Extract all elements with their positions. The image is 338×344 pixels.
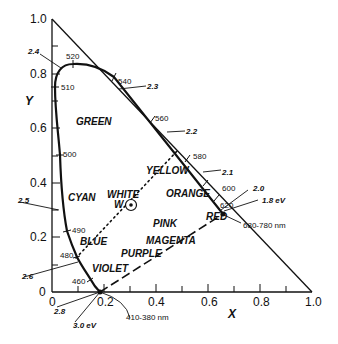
svg-text:580: 580 (193, 152, 207, 161)
svg-text:2.0: 2.0 (252, 184, 265, 193)
svg-text:YELLOW: YELLOW (146, 165, 190, 176)
svg-text:2.5: 2.5 (17, 196, 30, 205)
svg-text:2.6: 2.6 (21, 272, 34, 281)
svg-text:600: 600 (222, 184, 236, 193)
svg-text:620: 620 (220, 201, 234, 210)
svg-text:1.8 eV: 1.8 eV (262, 196, 286, 205)
svg-text:560: 560 (155, 114, 169, 123)
svg-text:PURPLE: PURPLE (121, 248, 162, 259)
svg-text:2.4: 2.4 (27, 47, 40, 56)
svg-text:0.4: 0.4 (30, 176, 47, 190)
svg-text:520: 520 (66, 52, 80, 61)
svg-text:510: 510 (61, 83, 75, 92)
svg-text:2.3: 2.3 (146, 82, 159, 91)
svg-text:0.2: 0.2 (97, 295, 114, 309)
diagonal-line (52, 19, 312, 292)
svg-text:RED: RED (206, 211, 227, 222)
svg-text:2.1: 2.1 (221, 168, 234, 177)
svg-text:2.2: 2.2 (185, 127, 198, 136)
svg-text:0.8: 0.8 (253, 295, 270, 309)
axes (52, 19, 312, 292)
x-ticks (78, 284, 286, 292)
svg-text:490: 490 (72, 226, 86, 235)
color-region-labels: GREEN YELLOW ORANGE RED PINK MAGENTA PUR… (68, 116, 227, 274)
y-axis-title: Y (25, 94, 34, 108)
svg-text:3.0 eV: 3.0 eV (73, 321, 97, 330)
svg-text:1.0: 1.0 (30, 12, 47, 26)
cie-chromaticity-diagram: 1.0 0.8 0.6 0.4 0.2 0 0 0.2 0.4 0.6 0.8 … (0, 0, 338, 344)
svg-text:0.6: 0.6 (201, 295, 218, 309)
svg-text:PINK: PINK (153, 218, 178, 229)
svg-text:0.6: 0.6 (30, 121, 47, 135)
svg-text:680-780 nm: 680-780 nm (243, 221, 286, 230)
svg-text:0: 0 (39, 285, 46, 299)
svg-text:VIOLET: VIOLET (92, 263, 129, 274)
svg-text:2.8: 2.8 (53, 307, 66, 316)
svg-text:0.8: 0.8 (30, 67, 47, 81)
svg-text:MAGENTA: MAGENTA (146, 235, 196, 246)
x-tick-labels: 0 0.2 0.4 0.6 0.8 1.0 (49, 295, 322, 309)
svg-text:ORANGE: ORANGE (166, 188, 210, 199)
svg-text:W: W (114, 199, 125, 210)
svg-text:1.0: 1.0 (305, 295, 322, 309)
svg-text:GREEN: GREEN (76, 116, 112, 127)
svg-text:CYAN: CYAN (68, 192, 96, 203)
svg-text:460: 460 (72, 277, 86, 286)
white-point-marker (126, 200, 137, 211)
svg-text:410-380 nm: 410-380 nm (126, 313, 169, 322)
svg-text:0.4: 0.4 (148, 295, 165, 309)
svg-text:500: 500 (63, 150, 77, 159)
svg-text:540: 540 (118, 77, 132, 86)
svg-text:BLUE: BLUE (80, 236, 108, 247)
svg-text:480: 480 (60, 251, 74, 260)
energy-labels: 2.4 2.3 2.2 2.1 2.0 1.8 eV 2.5 2.6 2.8 3… (17, 47, 286, 330)
svg-text:0.2: 0.2 (30, 230, 47, 244)
x-axis-title: X (227, 307, 237, 321)
